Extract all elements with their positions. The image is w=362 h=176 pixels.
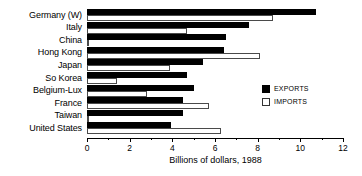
category-label: Hong Kong xyxy=(0,47,82,57)
x-tick-label: 0 xyxy=(75,143,99,153)
bar-group xyxy=(87,47,343,60)
bar-group xyxy=(87,9,343,22)
x-tick-minor xyxy=(108,138,109,140)
x-tick-major xyxy=(343,138,344,142)
x-tick-major xyxy=(172,138,173,142)
horizontal-bar-chart: Germany (W)ItalyChinaHong KongJapanSo Ko… xyxy=(0,0,362,176)
bar-group xyxy=(87,110,343,123)
bar-group xyxy=(87,22,343,35)
bar-group xyxy=(87,34,343,47)
x-tick-major xyxy=(215,138,216,142)
x-axis-title: Billions of dollars, 1988 xyxy=(87,155,344,166)
x-tick-major xyxy=(258,138,259,142)
category-label: Taiwan xyxy=(0,110,82,120)
plot-area xyxy=(87,9,343,135)
category-label: Germany (W) xyxy=(0,10,82,20)
x-tick-label: 4 xyxy=(160,143,184,153)
bar-imports xyxy=(87,103,209,109)
category-axis-labels: Germany (W)ItalyChinaHong KongJapanSo Ko… xyxy=(0,9,84,135)
x-tick-minor xyxy=(236,138,237,140)
bar-imports xyxy=(87,53,260,59)
bar-imports xyxy=(87,78,117,84)
bar-imports xyxy=(87,128,221,134)
x-tick-label: 6 xyxy=(203,143,227,153)
bar-group xyxy=(87,59,343,72)
legend-item-imports: IMPORTS xyxy=(262,96,309,107)
category-label: China xyxy=(0,35,82,45)
x-tick-label: 10 xyxy=(288,143,312,153)
x-tick-label: 12 xyxy=(331,143,355,153)
category-label: So Korea xyxy=(0,73,82,83)
category-label: Belgium-Lux xyxy=(0,85,82,95)
category-label: Italy xyxy=(0,22,82,32)
x-tick-major xyxy=(300,138,301,142)
bar-exports xyxy=(87,34,226,40)
bar-imports xyxy=(87,40,89,46)
x-tick-minor xyxy=(151,138,152,140)
bar-imports xyxy=(87,28,187,34)
x-tick-label: 2 xyxy=(118,143,142,153)
chart-legend: EXPORTS IMPORTS xyxy=(262,83,309,109)
bar-exports xyxy=(87,110,183,116)
legend-label-imports: IMPORTS xyxy=(274,98,307,106)
x-tick-minor xyxy=(279,138,280,140)
legend-label-exports: EXPORTS xyxy=(274,85,309,93)
bar-imports xyxy=(87,91,147,97)
bar-imports xyxy=(87,15,273,21)
x-tick-label: 8 xyxy=(246,143,270,153)
x-tick-minor xyxy=(194,138,195,140)
x-tick-major xyxy=(87,138,88,142)
legend-swatch-exports-icon xyxy=(262,85,270,93)
legend-item-exports: EXPORTS xyxy=(262,83,309,94)
bar-imports xyxy=(87,116,89,122)
bar-imports xyxy=(87,65,170,71)
category-label: France xyxy=(0,98,82,108)
bar-group xyxy=(87,122,343,135)
x-tick-major xyxy=(130,138,131,142)
x-tick-minor xyxy=(322,138,323,140)
legend-swatch-imports-icon xyxy=(262,98,270,106)
category-label: Japan xyxy=(0,60,82,70)
category-label: United States xyxy=(0,123,82,133)
